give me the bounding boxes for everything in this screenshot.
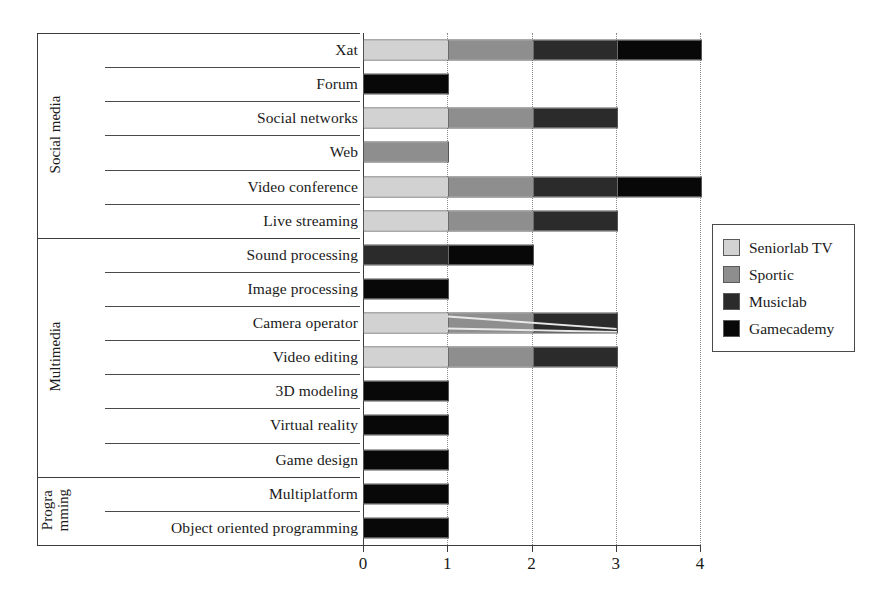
row-separator — [105, 374, 360, 375]
bar-segment[interactable] — [364, 211, 448, 230]
bar-segment[interactable] — [364, 75, 448, 94]
category-label: Forum — [316, 75, 358, 93]
bar-segment[interactable] — [364, 279, 448, 298]
stacked-bar[interactable] — [363, 347, 618, 368]
bar-segment[interactable] — [364, 416, 448, 435]
x-tick-label: 2 — [512, 554, 552, 574]
stacked-bar[interactable] — [363, 415, 449, 436]
bar-segment[interactable] — [533, 109, 617, 128]
category-label: Sound processing — [247, 245, 358, 263]
bar-segment[interactable] — [364, 109, 448, 128]
stacked-bar[interactable] — [363, 40, 702, 61]
bar-segment[interactable] — [533, 314, 617, 333]
bar-segment[interactable] — [617, 41, 701, 60]
stacked-bar[interactable] — [363, 210, 618, 231]
legend-label: Musiclab — [749, 293, 807, 311]
legend: Seniorlab TV Sportic Musiclab Gamecademy — [712, 224, 855, 352]
bar-segment[interactable] — [364, 143, 448, 162]
category-label: Virtual reality — [270, 416, 358, 434]
legend-label: Seniorlab TV — [749, 239, 833, 257]
bar-segment[interactable] — [448, 314, 532, 333]
group-bracket — [37, 477, 38, 545]
x-tick — [616, 545, 617, 552]
bar-segment[interactable] — [364, 245, 448, 264]
chart-row: Multiplatform — [0, 477, 887, 511]
bar-segment[interactable] — [448, 211, 532, 230]
bar-segment[interactable] — [448, 41, 532, 60]
x-tick-label: 1 — [427, 554, 467, 574]
chart-row: Video conference — [0, 170, 887, 204]
category-label: Web — [330, 143, 358, 161]
row-separator — [105, 511, 360, 512]
stacked-bar[interactable] — [363, 244, 534, 265]
category-label: Xat — [335, 41, 358, 59]
chart-row: Xat — [0, 33, 887, 67]
row-separator — [105, 170, 360, 171]
legend-item-gamecademy[interactable]: Gamecademy — [723, 315, 846, 342]
bar-segment[interactable] — [533, 348, 617, 367]
bar-segment[interactable] — [533, 177, 617, 196]
group-label-line: Multimedia — [47, 322, 63, 392]
x-tick — [447, 545, 448, 552]
x-tick-label: 0 — [343, 554, 383, 574]
chart-row: 3D modeling — [0, 374, 887, 408]
bar-segment[interactable] — [364, 484, 448, 503]
chart-row: Object oriented programming — [0, 511, 887, 545]
x-tick-label: 4 — [680, 554, 720, 574]
category-label: Camera operator — [253, 314, 358, 332]
bar-segment[interactable] — [364, 382, 448, 401]
chart-row: Virtual reality — [0, 408, 887, 442]
category-label: Video conference — [248, 177, 358, 195]
bar-segment[interactable] — [364, 314, 448, 333]
legend-swatch-icon — [723, 320, 740, 337]
x-tick — [363, 545, 364, 552]
stacked-bar-chart: XatForumSocial networksWebVideo conferen… — [0, 0, 887, 592]
bar-segment[interactable] — [364, 518, 448, 537]
chart-row: Forum — [0, 67, 887, 101]
row-separator — [105, 340, 360, 341]
group-separator — [37, 477, 360, 478]
x-tick — [532, 545, 533, 552]
bar-segment[interactable] — [364, 41, 448, 60]
category-label: Game design — [276, 450, 358, 468]
stacked-bar[interactable] — [363, 108, 618, 129]
group-separator — [37, 238, 360, 239]
bar-segment[interactable] — [448, 177, 532, 196]
stacked-bar[interactable] — [363, 74, 449, 95]
bar-segment[interactable] — [448, 245, 532, 264]
legend-item-musiclab[interactable]: Musiclab — [723, 288, 846, 315]
row-separator — [105, 67, 360, 68]
row-separator — [105, 408, 360, 409]
bar-segment[interactable] — [448, 348, 532, 367]
bar-segment[interactable] — [617, 177, 701, 196]
category-label: Object oriented programming — [171, 518, 358, 536]
legend-item-seniorlab-tv[interactable]: Seniorlab TV — [723, 234, 846, 261]
legend-item-sportic[interactable]: Sportic — [723, 261, 846, 288]
legend-label: Gamecademy — [749, 320, 834, 338]
bar-segment[interactable] — [533, 41, 617, 60]
chart-row: Web — [0, 135, 887, 169]
stacked-bar[interactable] — [363, 142, 449, 163]
row-separator — [105, 204, 360, 205]
stacked-bar[interactable] — [363, 483, 449, 504]
bar-segment[interactable] — [448, 109, 532, 128]
stacked-bar[interactable] — [363, 313, 618, 334]
legend-swatch-icon — [723, 293, 740, 310]
category-label: Live streaming — [263, 211, 358, 229]
bar-segment[interactable] — [533, 211, 617, 230]
group-label-line: mming — [55, 476, 71, 544]
group-label-line: Social media — [47, 96, 63, 174]
bar-segment[interactable] — [364, 450, 448, 469]
stacked-bar[interactable] — [363, 381, 449, 402]
bar-segment[interactable] — [364, 177, 448, 196]
legend-swatch-icon — [723, 266, 740, 283]
stacked-bar[interactable] — [363, 449, 449, 470]
x-tick-label: 3 — [596, 554, 636, 574]
stacked-bar[interactable] — [363, 176, 702, 197]
group-bracket — [37, 238, 38, 477]
stacked-bar[interactable] — [363, 278, 449, 299]
group-label-line: Progra — [39, 476, 55, 544]
stacked-bar[interactable] — [363, 517, 449, 538]
bar-segment[interactable] — [364, 348, 448, 367]
group-separator — [37, 33, 360, 34]
